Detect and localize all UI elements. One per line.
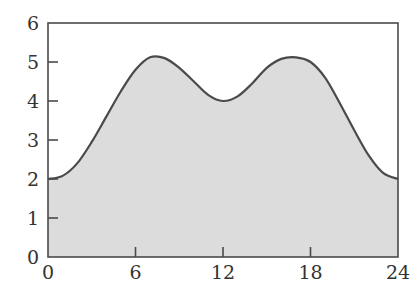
y-tick-label: 5	[27, 51, 39, 73]
area-fill-shape	[48, 56, 398, 257]
area-fill	[48, 56, 398, 257]
y-tick-label: 6	[27, 12, 39, 34]
y-tick-label: 3	[27, 129, 39, 151]
x-tick-label: 12	[211, 261, 235, 283]
x-tick-label: 0	[42, 261, 54, 283]
x-tick-label: 6	[129, 261, 141, 283]
area-chart: 0123456 06121824	[0, 0, 420, 304]
x-tick-label: 18	[298, 261, 322, 283]
y-tick-label: 1	[27, 207, 39, 229]
y-tick-label: 0	[27, 246, 39, 268]
x-tick-label: 24	[386, 261, 410, 283]
y-tick-label: 4	[27, 90, 39, 112]
y-tick-label: 2	[27, 168, 39, 190]
